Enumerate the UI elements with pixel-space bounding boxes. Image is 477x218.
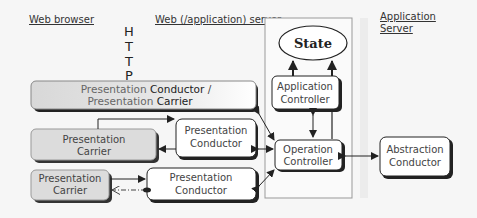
svg-text:Carrier: Carrier: [53, 185, 88, 196]
svg-text:Presentation: Presentation: [63, 134, 126, 145]
presentation-conductor-carrier-node: Presentation Conductor / Presentation Ca…: [31, 81, 258, 112]
http-label: H T T P: [124, 24, 134, 83]
application-controller-node: Application Controller: [272, 76, 342, 112]
svg-text:Conductor: Conductor: [175, 185, 228, 196]
svg-text:State: State: [294, 36, 332, 51]
svg-text:Presentation: Presentation: [170, 172, 233, 183]
web-server-label: Web (/application) server: [155, 14, 282, 25]
abstraction-conductor-node: Abstraction Conductor: [380, 137, 453, 179]
svg-text:T: T: [124, 54, 133, 69]
svg-text:Carrier: Carrier: [77, 146, 112, 157]
svg-text:Presentation Conductor /: Presentation Conductor /: [81, 83, 212, 95]
tier-divider: [360, 18, 368, 198]
presentation-carrier-bottom-node: Presentation Carrier: [31, 170, 112, 203]
application-server-label: Application: [380, 11, 436, 22]
svg-text:Conductor: Conductor: [389, 157, 442, 168]
state-node: State: [279, 26, 347, 60]
presentation-conductor-mid-node: Presentation Conductor: [176, 119, 258, 160]
architecture-diagram: Web browser Web (/application) server Ap…: [0, 0, 477, 218]
svg-text:Presentation: Presentation: [39, 173, 102, 184]
svg-text:Controller: Controller: [283, 156, 333, 167]
presentation-conductor-bottom-node: Presentation Conductor: [147, 168, 259, 203]
svg-text:Presentation: Presentation: [185, 125, 248, 136]
svg-text:Conductor: Conductor: [190, 138, 243, 149]
svg-text:Application: Application: [277, 81, 333, 92]
operation-controller-node: Operation Controller: [275, 140, 345, 172]
svg-text:Controller: Controller: [280, 94, 330, 105]
svg-text:H: H: [124, 24, 134, 39]
svg-text:T: T: [124, 39, 133, 54]
svg-text:Presentation Carrier: Presentation Carrier: [87, 95, 193, 107]
web-browser-label: Web browser: [29, 14, 95, 25]
svg-text:Operation: Operation: [283, 144, 333, 155]
application-server-label-2: Server: [380, 23, 414, 34]
presentation-carrier-mid-node: Presentation Carrier: [31, 129, 159, 163]
connector-dot: [143, 188, 151, 193]
arrow-carrier-to-conductor-mid: [98, 119, 174, 129]
svg-text:Abstraction: Abstraction: [386, 144, 443, 155]
